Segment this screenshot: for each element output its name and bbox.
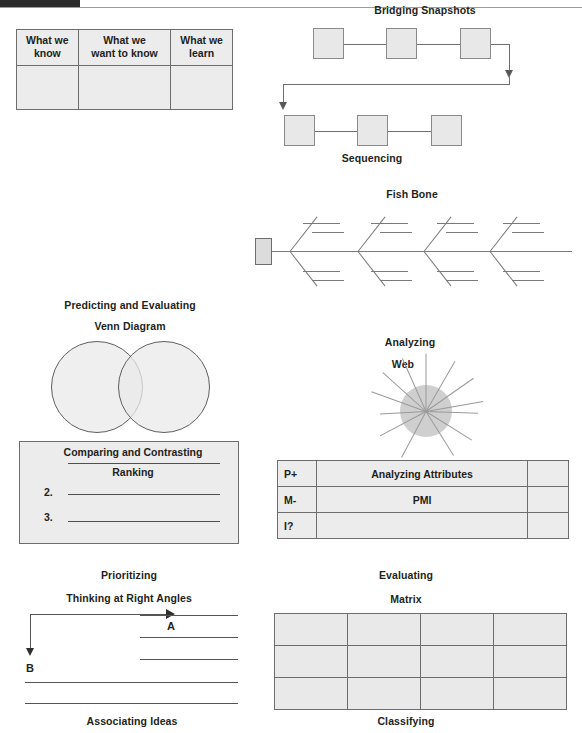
matrix-title: Matrix	[390, 593, 422, 605]
ranking-rule-3[interactable]	[68, 521, 220, 522]
bridging-snapshots-title: Bridging Snapshots	[374, 4, 476, 16]
pmi-key-minus: M-	[278, 487, 317, 513]
fish-bone-twig-u4a	[503, 223, 540, 224]
bridging-wrap-seg-2	[509, 44, 510, 72]
header-rule	[0, 7, 582, 8]
matrix-row-1	[275, 646, 567, 678]
matrix-row-2	[275, 678, 567, 710]
fish-bone-twig-d4a	[503, 271, 540, 272]
kwl-header-cell-2: What we learn	[171, 30, 233, 66]
bridging-box-r2c3[interactable]	[431, 115, 462, 146]
fish-bone-twig-u3a	[437, 223, 474, 224]
pmi-key-plus: P+	[278, 461, 317, 487]
ranking-rule-2[interactable]	[68, 494, 220, 495]
kwl-header-cell-0: What we know	[17, 30, 79, 66]
pmi-mid-2[interactable]	[317, 513, 528, 539]
pmi-tail-1[interactable]	[528, 487, 569, 513]
bridging-box-r2c1[interactable]	[284, 115, 315, 146]
venn-circle-right[interactable]	[118, 341, 210, 433]
fish-bone-twig-d1b	[312, 280, 344, 281]
bridging-wrap-seg-3	[283, 84, 509, 85]
fish-bone-rib-up-1	[290, 217, 318, 252]
fish-bone-title: Fish Bone	[386, 188, 438, 200]
right-angles-arrow-b-shaft	[30, 614, 31, 652]
fish-bone-twig-u2b	[380, 232, 412, 233]
matrix-cell-1-2[interactable]	[421, 646, 494, 678]
matrix-cell-2-1[interactable]	[348, 678, 421, 710]
bridging-wrap-seg-1	[491, 44, 509, 45]
matrix-cell-1-0[interactable]	[275, 646, 348, 678]
right-angles-arrow-a-head	[166, 609, 175, 619]
bridging-box-r1c1[interactable]	[313, 28, 344, 59]
kwl-body-cell-0[interactable]	[17, 65, 79, 109]
pmi-center-label: PMI	[317, 487, 528, 513]
comparing-contrasting-label: Comparing and Contrasting	[64, 446, 203, 458]
kwl-header-line-2a: What we	[180, 34, 223, 46]
matrix-cell-1-3[interactable]	[494, 646, 567, 678]
pmi-row-1: M- PMI	[278, 487, 569, 513]
bridging-wrap-seg-4	[509, 76, 510, 85]
kwl-header-row: What we know What we want to know What w…	[17, 30, 233, 66]
kwl-header-line-1a: What we	[103, 34, 146, 46]
matrix-cell-2-2[interactable]	[421, 678, 494, 710]
matrix-cell-1-1[interactable]	[348, 646, 421, 678]
matrix-grid	[274, 613, 567, 710]
analyzing-title: Analyzing	[385, 336, 436, 348]
bridging-wrap-arrowhead-down-left	[279, 102, 287, 110]
right-angles-long-line-2[interactable]	[25, 703, 238, 704]
web-spoke-1	[426, 354, 427, 412]
matrix-cell-0-1[interactable]	[348, 614, 421, 646]
kwl-header-line-2b: learn	[189, 47, 214, 59]
fish-bone-twig-u4b	[512, 232, 544, 233]
matrix-cell-2-3[interactable]	[494, 678, 567, 710]
ranking-title: Ranking	[112, 466, 153, 478]
pmi-row-0: P+ Analyzing Attributes	[278, 461, 569, 487]
fish-bone-twig-d4b	[512, 280, 544, 281]
fish-bone-twig-u1a	[303, 223, 340, 224]
pmi-tail-0[interactable]	[528, 461, 569, 487]
fish-bone-rib-up-3	[424, 217, 452, 252]
pmi-tail-2[interactable]	[528, 513, 569, 539]
kwl-header-line-1b: want to know	[91, 47, 158, 59]
right-angles-label-b: B	[26, 662, 34, 674]
fish-bone-twig-u1b	[312, 232, 344, 233]
prioritizing-caption: Prioritizing	[101, 569, 157, 581]
matrix-cell-0-3[interactable]	[494, 614, 567, 646]
right-angles-arrow-b-head	[26, 648, 34, 656]
matrix-cell-2-0[interactable]	[275, 678, 348, 710]
kwl-body-cell-1[interactable]	[78, 65, 171, 109]
sequencing-caption: Sequencing	[342, 152, 403, 164]
kwl-header-cell-1: What we want to know	[78, 30, 171, 66]
bridging-wrap-seg-5	[283, 84, 284, 104]
right-angles-long-line-1[interactable]	[25, 682, 238, 683]
right-angles-short-line-3[interactable]	[140, 659, 238, 660]
header-black-bar	[0, 0, 80, 7]
right-angles-label-a: A	[167, 620, 175, 632]
matrix-row-0	[275, 614, 567, 646]
pmi-key-interesting: I?	[278, 513, 317, 539]
matrix-cell-0-0[interactable]	[275, 614, 348, 646]
kwl-header-line-0b: know	[34, 47, 61, 59]
right-angles-short-line-2[interactable]	[140, 637, 238, 638]
fish-bone-twig-d2b	[380, 280, 412, 281]
matrix-cell-0-2[interactable]	[421, 614, 494, 646]
fish-bone-spine	[272, 251, 572, 252]
fish-bone-rib-down-2	[358, 251, 386, 286]
fish-bone-rib-down-4	[490, 251, 518, 286]
fish-bone-head-box[interactable]	[255, 238, 272, 265]
kwl-body-cell-2[interactable]	[171, 65, 233, 109]
fish-bone-rib-up-2	[358, 217, 386, 252]
bridging-box-r1c3[interactable]	[460, 28, 491, 59]
pmi-row-2: I?	[278, 513, 569, 539]
bridging-box-r1c2[interactable]	[386, 28, 417, 59]
kwl-chart: What we know What we want to know What w…	[16, 29, 233, 110]
associating-ideas-caption: Associating Ideas	[87, 715, 178, 727]
fish-bone-twig-u3b	[446, 232, 478, 233]
venn-diagram-subtitle: Venn Diagram	[94, 320, 165, 332]
ranking-number-3: 3.	[44, 511, 53, 523]
fish-bone-twig-d3a	[437, 271, 474, 272]
bridging-box-r2c2[interactable]	[357, 115, 388, 146]
predicting-evaluating-title: Predicting and Evaluating	[64, 299, 195, 311]
ranking-rule-1[interactable]	[68, 463, 220, 464]
right-angles-short-line-1[interactable]	[140, 615, 238, 616]
